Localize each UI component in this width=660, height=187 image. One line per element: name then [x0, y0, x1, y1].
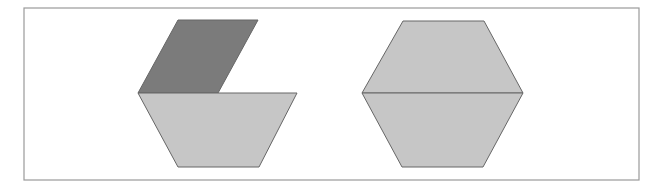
diagram-canvas	[0, 0, 660, 187]
light-trapezoid	[138, 93, 297, 167]
hexagon-bottom-trapezoid	[362, 93, 523, 167]
left-composition	[138, 20, 297, 167]
hexagon-composition	[362, 21, 523, 167]
dark-parallelogram	[138, 20, 258, 93]
diagram-frame	[24, 8, 639, 180]
hexagon-top-trapezoid	[362, 21, 523, 93]
